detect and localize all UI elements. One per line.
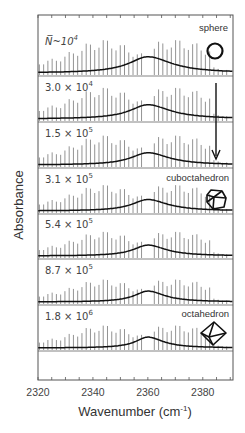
octahedron-icon <box>201 322 226 345</box>
spectrum-panel: 3.0 × 104 <box>38 80 233 121</box>
x-tick-label: 2380 <box>191 386 215 398</box>
spectrum-panel: 1.5 × 105 <box>38 126 233 167</box>
y-axis-label: Absorbance <box>11 170 26 239</box>
size-label: 1.8 × 106 <box>45 309 93 322</box>
stacked-absorbance-spectra-chart: N̅~1043.0 × 1041.5 × 1053.1 × 1055.4 × 1… <box>0 0 245 433</box>
x-tick-label: 2340 <box>81 386 105 398</box>
x-tick-label: 2360 <box>136 386 160 398</box>
size-label: 3.0 × 104 <box>45 80 93 93</box>
spectrum-panel: 8.7 × 105 <box>38 263 233 304</box>
spectrum-panel: 5.4 × 105 <box>38 217 233 258</box>
size-label: 8.7 × 105 <box>45 263 93 276</box>
size-label: 5.4 × 105 <box>45 217 93 230</box>
sphere-label: sphere <box>199 22 228 33</box>
size-label: 1.5 × 105 <box>45 126 93 139</box>
spectrum-panel: N̅~104 <box>38 34 233 75</box>
sphere-icon <box>208 44 223 59</box>
cuboctahedron-label: cuboctahedron <box>166 172 229 183</box>
octahedron-label: octahedron <box>181 308 229 319</box>
x-tick-label: 2320 <box>26 386 50 398</box>
spectra-panels: N̅~1043.0 × 1041.5 × 1053.1 × 1055.4 × 1… <box>38 34 233 351</box>
size-label: 3.1 × 105 <box>45 172 93 185</box>
size-label: N̅~104 <box>45 34 78 47</box>
cuboctahedron-icon <box>207 190 226 209</box>
x-axis-label: Wavenumber (cm-1) <box>78 404 192 419</box>
